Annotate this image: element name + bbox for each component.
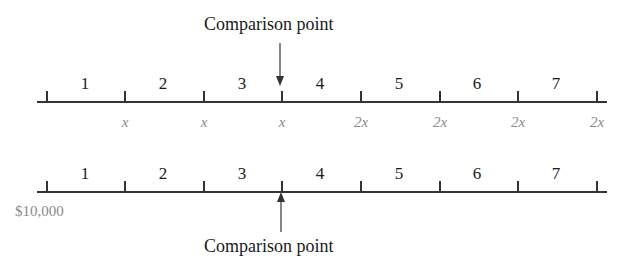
top-tick-2 — [203, 91, 205, 101]
top-period-5: 5 — [384, 74, 414, 94]
bottom-period-2: 2 — [148, 164, 178, 184]
top-period-1: 1 — [70, 74, 100, 94]
bottom-tick-5 — [439, 181, 441, 191]
top-tick-1 — [124, 91, 126, 101]
bottom-period-3: 3 — [227, 164, 257, 184]
top-period-6: 6 — [462, 74, 492, 94]
top-tick-6 — [517, 91, 519, 101]
top-tick-4 — [360, 91, 362, 101]
bottom-period-4: 4 — [305, 164, 335, 184]
bottom-tick-2 — [203, 181, 205, 191]
bottom-comparison-caption: Comparison point — [204, 236, 334, 257]
top-period-4: 4 — [305, 74, 335, 94]
top-cash-flow-6: 2x — [498, 114, 538, 131]
top-comparison-arrow-icon — [276, 43, 284, 86]
top-tick-3 — [281, 91, 283, 101]
bottom-period-6: 6 — [462, 164, 492, 184]
top-cash-flow-7: 2x — [577, 114, 617, 131]
top-cash-flow-2: x — [184, 114, 224, 131]
arrows-layer — [0, 0, 621, 276]
top-tick-7 — [596, 91, 598, 101]
bottom-timeline-axis — [37, 191, 607, 193]
bottom-tick-6 — [517, 181, 519, 191]
bottom-period-1: 1 — [70, 164, 100, 184]
bottom-period-5: 5 — [384, 164, 414, 184]
initial-amount: $10,000 — [15, 203, 64, 220]
bottom-tick-0 — [46, 181, 48, 191]
top-cash-flow-4: 2x — [341, 114, 381, 131]
bottom-comparison-arrow-icon — [277, 192, 285, 232]
top-period-2: 2 — [148, 74, 178, 94]
bottom-tick-4 — [360, 181, 362, 191]
top-timeline-axis — [37, 101, 607, 103]
top-tick-0 — [46, 91, 48, 101]
top-tick-5 — [439, 91, 441, 101]
bottom-tick-1 — [124, 181, 126, 191]
top-cash-flow-1: x — [105, 114, 145, 131]
bottom-tick-3 — [281, 181, 283, 191]
top-period-3: 3 — [227, 74, 257, 94]
top-cash-flow-5: 2x — [420, 114, 460, 131]
bottom-tick-7 — [596, 181, 598, 191]
bottom-period-7: 7 — [541, 164, 571, 184]
top-cash-flow-3: x — [262, 114, 302, 131]
top-period-7: 7 — [541, 74, 571, 94]
